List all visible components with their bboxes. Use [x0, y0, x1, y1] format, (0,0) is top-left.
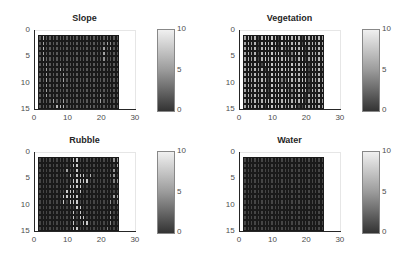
y-tick-label: 5 [25, 51, 29, 60]
y-tick-label: 0 [230, 147, 234, 156]
y-tick-label: 5 [25, 173, 29, 182]
x-tick-label: 30 [130, 235, 139, 244]
x-tick-label: 20 [97, 113, 106, 122]
colorbar-tick-label: 10 [177, 24, 186, 33]
x-tick-label: 0 [237, 235, 241, 244]
axes-right-edge [135, 30, 136, 109]
heatmap-panel-slope: Slope01020300510151050 [0, 0, 204, 128]
y-tick-label: 10 [226, 78, 235, 87]
axes-top-edge [240, 30, 341, 31]
y-tick-label: 15 [226, 104, 235, 113]
colorbar [157, 151, 175, 234]
y-tick-label: 15 [21, 226, 30, 235]
x-tick-label: 10 [268, 235, 277, 244]
axes-top-edge [35, 152, 136, 153]
colorbar-tick-label: 10 [177, 146, 186, 155]
panel-title: Vegetation [230, 13, 350, 23]
plot-axes [239, 30, 341, 110]
x-tick-label: 30 [335, 113, 344, 122]
heatmap-cell [116, 104, 119, 109]
colorbar-tick-label: 0 [382, 227, 386, 236]
colorbar-tick-label: 10 [382, 24, 391, 33]
colorbar-tick-label: 0 [177, 105, 181, 114]
x-tick-label: 20 [302, 113, 311, 122]
y-tick-label: 5 [230, 51, 234, 60]
y-tick-label: 15 [21, 104, 30, 113]
x-tick-label: 30 [130, 113, 139, 122]
x-tick-label: 0 [32, 113, 36, 122]
plot-axes [239, 152, 341, 232]
y-tick-label: 10 [226, 200, 235, 209]
y-tick-label: 0 [230, 25, 234, 34]
y-tick-label: 10 [21, 78, 30, 87]
heatmap-grid [38, 35, 119, 109]
heatmap-panel-water: Water01020300510151050 [205, 122, 409, 250]
heatmap-grid [243, 157, 324, 231]
x-tick-label: 0 [32, 235, 36, 244]
y-tick-label: 15 [226, 226, 235, 235]
axes-top-edge [35, 30, 136, 31]
colorbar-tick-label: 0 [177, 227, 181, 236]
panel-title: Water [230, 135, 350, 145]
y-tick-label: 0 [25, 147, 29, 156]
axes-right-edge [135, 152, 136, 231]
x-tick-label: 10 [268, 113, 277, 122]
plot-axes [34, 152, 136, 232]
heatmap-grid [38, 157, 119, 231]
x-tick-label: 20 [302, 235, 311, 244]
heatmap-cell [321, 226, 324, 231]
heatmap-panel-rubble: Rubble01020300510151050 [0, 122, 204, 250]
x-tick-label: 10 [63, 113, 72, 122]
colorbar [362, 151, 380, 234]
y-tick-label: 0 [25, 25, 29, 34]
heatmap-panel-vegetation: Vegetation01020300510151050 [205, 0, 409, 128]
colorbar-tick-label: 5 [382, 65, 386, 74]
y-tick-label: 10 [21, 200, 30, 209]
heatmap-cell [321, 104, 324, 109]
colorbar-tick-label: 10 [382, 146, 391, 155]
colorbar-tick-label: 5 [177, 65, 181, 74]
plot-axes [34, 30, 136, 110]
heatmap-grid [243, 35, 324, 109]
axes-right-edge [340, 152, 341, 231]
axes-top-edge [240, 152, 341, 153]
colorbar-tick-label: 0 [382, 105, 386, 114]
x-tick-label: 20 [97, 235, 106, 244]
panel-title: Slope [25, 13, 145, 23]
colorbar-tick-label: 5 [177, 187, 181, 196]
x-tick-label: 0 [237, 113, 241, 122]
x-tick-label: 10 [63, 235, 72, 244]
panel-title: Rubble [25, 135, 145, 145]
colorbar [157, 29, 175, 112]
colorbar-tick-label: 5 [382, 187, 386, 196]
colorbar [362, 29, 380, 112]
y-tick-label: 5 [230, 173, 234, 182]
heatmap-cell [116, 226, 119, 231]
x-tick-label: 30 [335, 235, 344, 244]
axes-right-edge [340, 30, 341, 109]
